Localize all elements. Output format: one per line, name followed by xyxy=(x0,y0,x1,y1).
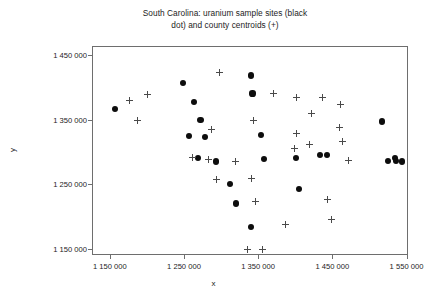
sample-site-dot xyxy=(227,181,233,187)
x-axis-tick xyxy=(407,255,408,259)
sample-site-dot xyxy=(296,186,302,192)
sample-site-dot xyxy=(112,106,118,112)
county-centroid-plus xyxy=(126,97,133,104)
county-centroid-plus xyxy=(208,126,215,133)
y-axis-label: y xyxy=(8,148,17,152)
county-centroid-plus xyxy=(252,198,259,205)
sample-site-dot xyxy=(195,155,201,161)
county-centroid-plus xyxy=(308,110,315,117)
sample-site-dot xyxy=(202,134,208,140)
county-centroid-plus xyxy=(248,175,255,182)
y-axis-tick-label: 1 250 000 xyxy=(53,180,87,189)
county-centroid-plus xyxy=(270,90,277,97)
county-centroid-plus xyxy=(345,157,352,164)
sample-site-dot xyxy=(324,152,330,158)
county-centroid-plus xyxy=(336,124,343,131)
sample-site-dot xyxy=(379,118,385,124)
x-axis-tick xyxy=(110,255,111,259)
sample-site-dot xyxy=(317,152,323,158)
chart-title: South Carolina: uranium sample sites (bl… xyxy=(60,8,390,31)
sample-site-dot xyxy=(248,224,254,230)
county-centroid-plus xyxy=(232,158,239,165)
county-centroid-plus xyxy=(291,145,298,152)
county-centroid-plus xyxy=(216,69,223,76)
sample-site-dot xyxy=(293,155,299,161)
x-axis-tick-label: 1 150 000 xyxy=(93,262,127,271)
county-centroid-plus xyxy=(282,221,289,228)
sample-site-dot xyxy=(258,132,264,138)
plot-area xyxy=(92,46,408,255)
x-axis-tick xyxy=(258,255,259,259)
county-centroid-plus xyxy=(213,176,220,183)
county-centroid-plus xyxy=(134,117,141,124)
sample-site-dot xyxy=(248,72,254,78)
x-axis-tick xyxy=(332,255,333,259)
sample-site-dot xyxy=(213,158,219,164)
y-axis-tick xyxy=(88,120,92,121)
county-centroid-plus xyxy=(144,91,151,98)
y-axis-tick xyxy=(88,184,92,185)
county-centroid-plus xyxy=(244,246,251,253)
county-centroid-plus xyxy=(306,141,313,148)
x-axis-tick-label: 1 550 000 xyxy=(390,262,424,271)
sample-site-dot xyxy=(385,158,391,164)
sample-site-dot xyxy=(197,117,203,123)
county-centroid-plus xyxy=(205,156,212,163)
county-centroid-plus xyxy=(337,101,344,108)
data-points-layer xyxy=(93,47,407,254)
x-axis-tick-label: 1 450 000 xyxy=(315,262,349,271)
x-axis-tick-label: 1 350 000 xyxy=(241,262,275,271)
county-centroid-plus xyxy=(319,94,326,101)
county-centroid-plus xyxy=(293,94,300,101)
sample-site-dot xyxy=(180,80,186,86)
x-axis-tick-label: 1 250 000 xyxy=(167,262,201,271)
sample-site-dot xyxy=(186,133,192,139)
x-axis-label: x xyxy=(0,279,427,288)
sample-site-dot xyxy=(233,200,239,206)
y-axis-tick-label: 1 450 000 xyxy=(53,51,87,60)
x-axis-tick xyxy=(184,255,185,259)
y-axis-tick-label: 1 150 000 xyxy=(53,245,87,254)
county-centroid-plus xyxy=(339,138,346,145)
county-centroid-plus xyxy=(259,246,266,253)
sample-site-dot xyxy=(249,90,255,96)
y-axis-tick xyxy=(88,249,92,250)
y-axis-tick xyxy=(88,55,92,56)
county-centroid-plus xyxy=(189,154,196,161)
sample-site-dot xyxy=(399,158,405,164)
county-centroid-plus xyxy=(293,130,300,137)
sample-site-dot xyxy=(261,156,267,162)
sample-site-dot xyxy=(191,99,197,105)
y-axis-tick-label: 1 350 000 xyxy=(53,115,87,124)
county-centroid-plus xyxy=(324,196,331,203)
county-centroid-plus xyxy=(328,216,335,223)
scatter-plot-figure: South Carolina: uranium sample sites (bl… xyxy=(0,0,427,304)
county-centroid-plus xyxy=(250,117,257,124)
